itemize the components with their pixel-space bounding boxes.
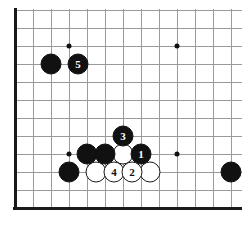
board-edge-left: [14, 8, 17, 210]
stone-move-number: 2: [129, 167, 135, 178]
grid-line-horizontal: [14, 118, 242, 119]
stone-move-number: 1: [138, 149, 144, 160]
white-stone-move-2: 2: [122, 162, 143, 183]
grid-line-vertical: [213, 9, 214, 209]
white-stone-bottom-d: [140, 162, 161, 183]
grid-line-horizontal: [14, 28, 242, 29]
grid-line-vertical: [51, 9, 52, 209]
star-point-upper-left: [67, 44, 72, 49]
grid-line-horizontal: [14, 10, 242, 11]
grid-line-vertical: [177, 9, 178, 209]
black-stone-right-side: [221, 162, 242, 183]
grid-line-horizontal: [14, 82, 242, 83]
stone-move-number: 3: [120, 131, 126, 142]
board-edge-bottom: [13, 207, 242, 210]
grid-line-horizontal: [14, 100, 242, 101]
grid-line-vertical: [159, 9, 160, 209]
star-point-lower-left: [67, 152, 72, 157]
stone-move-number: 5: [75, 59, 81, 70]
star-point-lower-right: [175, 152, 180, 157]
grid-line-vertical: [33, 9, 34, 209]
stone-move-number: 4: [111, 167, 117, 178]
black-stone-lower-left: [59, 162, 80, 183]
black-stone-upper-left-corner: [41, 54, 62, 75]
grid-line-vertical: [195, 9, 196, 209]
black-stone-move-5: 5: [68, 54, 89, 75]
grid-line-horizontal: [14, 46, 242, 47]
grid-line-horizontal: [14, 190, 242, 191]
board-grid: [0, 0, 242, 227]
star-point-upper-right: [175, 44, 180, 49]
black-stone-move-3: 3: [113, 126, 134, 147]
go-board-diagram: 53142: [0, 0, 242, 227]
